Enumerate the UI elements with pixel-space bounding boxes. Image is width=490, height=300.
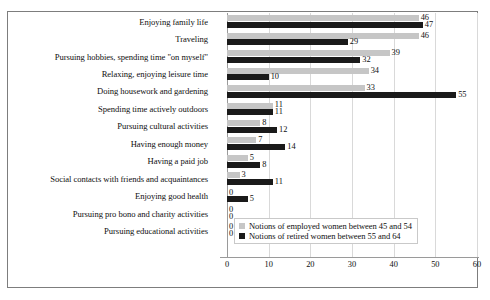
category-label: Pursuing pro bono and charity activities — [8, 205, 213, 222]
bar-dark — [227, 22, 423, 28]
bar-row: 58 — [220, 153, 479, 170]
x-tick-label: 50 — [431, 260, 439, 269]
x-axis-line — [220, 257, 479, 258]
bar-dark — [227, 144, 285, 150]
category-label: Pursuing educational activities — [8, 222, 213, 239]
category-label: Enjoying family life — [8, 13, 213, 30]
bar-rows: 4647462939323410335511118127145831105000… — [220, 13, 479, 240]
bar-value-label: 5 — [250, 195, 254, 202]
bar-row: 05 — [220, 187, 479, 204]
bar-value-label: 11 — [275, 108, 283, 115]
category-label: Doing housework and gardening — [8, 83, 213, 100]
bar-value-label: 0 — [229, 189, 233, 196]
category-label: Social contacts with friends and acquain… — [8, 170, 213, 187]
bar-value-label: 39 — [392, 49, 400, 56]
bar-row: 1111 — [220, 100, 479, 117]
chart-frame: Enjoying family lifeTravelingPursuing ho… — [7, 11, 478, 288]
bar-dark — [227, 57, 360, 63]
bar-dark — [227, 179, 273, 185]
bar-row: 714 — [220, 135, 479, 152]
bar-light — [227, 85, 365, 91]
bar-light — [227, 137, 256, 143]
legend-label: Notions of employed women between 45 and… — [249, 221, 412, 231]
x-tick-label: 0 — [225, 260, 229, 269]
category-label: Spending time actively outdoors — [8, 100, 213, 117]
chart-legend: Notions of employed women between 45 and… — [234, 218, 418, 244]
x-tick-label: 40 — [389, 260, 397, 269]
bar-light — [227, 33, 419, 39]
bar-dark — [227, 92, 456, 98]
legend-item[interactable]: Notions of retired women between 55 and … — [239, 231, 412, 241]
bar-row: 311 — [220, 170, 479, 187]
bar-dark — [227, 162, 260, 168]
bar-dark — [227, 74, 269, 80]
category-label: Pursuing hobbies, spending time "on myse… — [8, 48, 213, 65]
bar-value-label: 47 — [425, 21, 433, 28]
bar-row: 3355 — [220, 83, 479, 100]
bar-value-label: 11 — [275, 178, 283, 185]
grouped-bar-chart: Enjoying family lifeTravelingPursuing ho… — [8, 12, 479, 289]
bar-light — [227, 103, 273, 109]
bar-value-label: 33 — [367, 84, 375, 91]
x-tick-label: 20 — [306, 260, 314, 269]
bar-value-label: 10 — [271, 73, 279, 80]
bar-dark — [227, 196, 248, 202]
x-tick-label: 10 — [264, 260, 272, 269]
bar-light — [227, 155, 248, 161]
bar-light — [227, 68, 369, 74]
bar-value-label: 46 — [421, 32, 429, 39]
bar-dark — [227, 39, 348, 45]
bar-value-label: 34 — [371, 67, 379, 74]
bar-row: 4629 — [220, 30, 479, 47]
bar-value-label: 0 — [229, 230, 233, 237]
category-label: Having a paid job — [8, 153, 213, 170]
x-axis: 0102030405060 — [220, 257, 479, 273]
x-tick-label: 30 — [348, 260, 356, 269]
bar-value-label: 32 — [362, 56, 370, 63]
bar-light — [227, 172, 240, 178]
bar-row: 3410 — [220, 65, 479, 82]
bar-light — [227, 120, 260, 126]
bar-light — [227, 15, 419, 21]
legend-swatch-employed-icon — [239, 223, 245, 229]
category-label: Traveling — [8, 30, 213, 47]
category-axis-labels: Enjoying family lifeTravelingPursuing ho… — [8, 13, 213, 240]
bar-row: 4647 — [220, 13, 479, 30]
bar-value-label: 14 — [287, 143, 295, 150]
legend-swatch-retired-icon — [239, 233, 245, 239]
bar-value-label: 8 — [262, 119, 266, 126]
bar-value-label: 55 — [458, 91, 466, 98]
category-label: Relaxing, enjoying leisure time — [8, 65, 213, 82]
bar-value-label: 12 — [279, 126, 287, 133]
bar-dark — [227, 109, 273, 115]
bar-value-label: 5 — [250, 154, 254, 161]
bar-value-label: 29 — [350, 38, 358, 45]
x-tick-label: 60 — [473, 260, 481, 269]
legend-label: Notions of retired women between 55 and … — [249, 231, 401, 241]
bar-dark — [227, 127, 277, 133]
bar-value-label: 0 — [229, 213, 233, 220]
bar-value-label: 3 — [242, 171, 246, 178]
category-label: Pursuing cultural activities — [8, 118, 213, 135]
bar-value-label: 7 — [258, 136, 262, 143]
category-label: Having enough money — [8, 135, 213, 152]
legend-item[interactable]: Notions of employed women between 45 and… — [239, 221, 412, 231]
category-label: Enjoying good health — [8, 187, 213, 204]
bar-value-label: 8 — [262, 161, 266, 168]
bar-row: 3932 — [220, 48, 479, 65]
bar-row: 812 — [220, 118, 479, 135]
